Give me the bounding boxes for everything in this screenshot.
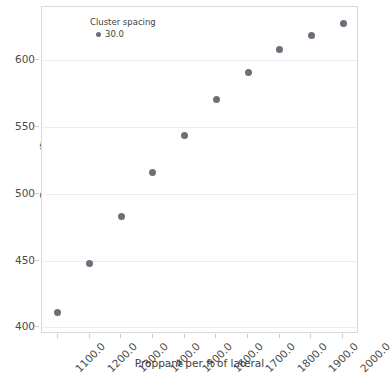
legend-marker-icon <box>96 32 101 37</box>
y-tick-label: 400 <box>15 320 35 332</box>
y-tick-label: 550 <box>15 120 35 132</box>
legend-entries: 30.0 <box>90 29 156 39</box>
legend: Cluster spacing 30.0 <box>88 15 162 42</box>
x-tick-mark <box>247 334 248 338</box>
x-tick-mark <box>342 334 343 338</box>
data-point <box>118 213 125 220</box>
data-point <box>86 260 93 267</box>
data-point <box>181 132 188 139</box>
legend-title: Cluster spacing <box>90 17 156 27</box>
plot-area: Cluster spacing 30.0 <box>41 6 358 333</box>
x-tick-mark <box>152 334 153 338</box>
y-tick-mark <box>35 260 39 261</box>
y-axis-tick-labels: 400450500550600 <box>0 6 35 333</box>
x-tick-mark <box>57 334 58 338</box>
x-tick-mark <box>279 334 280 338</box>
gridline-y <box>42 60 357 61</box>
x-tick-mark <box>89 334 90 338</box>
data-point <box>276 46 283 53</box>
x-tick-label: 2000.0 <box>358 340 392 374</box>
gridline-y <box>42 327 357 328</box>
y-tick-mark <box>35 126 39 127</box>
y-tick-label: 450 <box>15 254 35 266</box>
data-point <box>340 20 347 27</box>
x-tick-mark <box>184 334 185 338</box>
gridline-y <box>42 127 357 128</box>
x-axis-label: Proppant per ft of lateral <box>41 357 358 369</box>
y-tick-mark <box>35 59 39 60</box>
legend-entry-label: 30.0 <box>105 29 124 39</box>
data-point <box>245 69 252 76</box>
data-point <box>213 96 220 103</box>
data-point <box>308 32 315 39</box>
x-tick-mark <box>215 334 216 338</box>
y-tick-label: 600 <box>15 53 35 65</box>
y-tick-mark <box>35 193 39 194</box>
x-tick-mark <box>310 334 311 338</box>
x-tick-mark <box>120 334 121 338</box>
data-point <box>149 169 156 176</box>
data-point <box>54 309 61 316</box>
y-tick-label: 500 <box>15 187 35 199</box>
y-tick-mark <box>35 326 39 327</box>
gridline-y <box>42 194 357 195</box>
legend-entry[interactable]: 30.0 <box>90 29 156 39</box>
